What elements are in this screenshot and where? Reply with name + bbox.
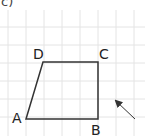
- vertex-label-c: C: [99, 47, 109, 61]
- vertex-label-d: D: [33, 47, 44, 61]
- vertex-label-a: A: [12, 111, 22, 125]
- vertex-label-b: B: [91, 123, 101, 136]
- arrow-icon: [116, 101, 135, 119]
